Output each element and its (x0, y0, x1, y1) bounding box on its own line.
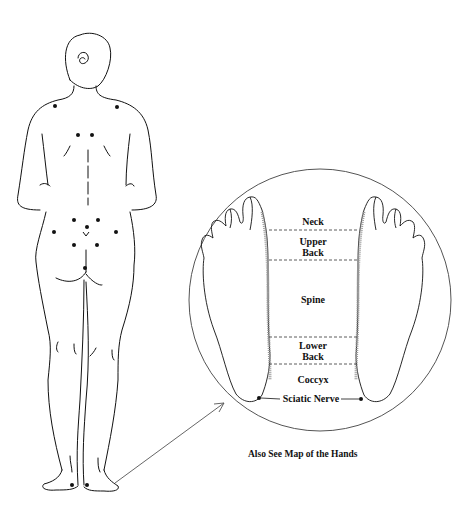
left-sole-spine-shading (262, 212, 270, 380)
pointer-arrow (115, 403, 224, 483)
label-upper-back: Upper Back (293, 236, 333, 258)
label-upper-back-line2: Back (293, 247, 333, 258)
left-sole (201, 197, 270, 402)
label-lower-back-line1: Lower (293, 340, 333, 351)
reflexology-diagram (0, 0, 459, 505)
label-neck: Neck (298, 216, 328, 227)
body-reflex-points (52, 104, 119, 487)
human-figure-back (18, 33, 157, 491)
label-spine: Spine (293, 294, 333, 305)
caption-see-hands-map: Also See Map of the Hands (248, 449, 358, 459)
label-lower-back: Lower Back (293, 340, 333, 362)
right-sole-spine-shading (356, 212, 364, 380)
right-sole (356, 197, 425, 402)
label-lower-back-line2: Back (293, 351, 333, 362)
label-sciatic-nerve: Sciatic Nerve (280, 393, 342, 404)
coccyx-mark (83, 232, 89, 236)
label-coccyx: Coccyx (288, 374, 338, 385)
label-upper-back-line1: Upper (293, 236, 333, 247)
